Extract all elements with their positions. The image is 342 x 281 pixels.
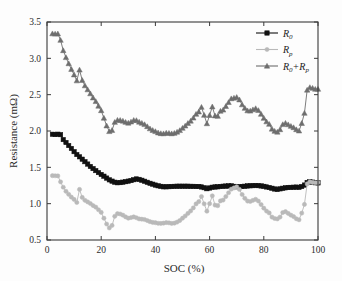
data-point-marker: [110, 223, 114, 227]
x-tick-label: 20: [96, 245, 106, 255]
data-point-marker: [221, 198, 225, 202]
y-tick-label: 1.5: [29, 163, 41, 173]
data-point-marker: [58, 180, 62, 184]
y-tick-label: 1.0: [29, 199, 41, 209]
data-point-marker: [77, 187, 81, 191]
data-point-marker: [224, 194, 228, 198]
data-point-marker: [265, 31, 269, 35]
data-point-marker: [226, 191, 230, 195]
x-tick-label: 100: [311, 245, 326, 255]
data-point-marker: [300, 211, 304, 215]
data-point-marker: [102, 216, 106, 220]
data-point-marker: [202, 202, 206, 206]
data-point-marker: [75, 200, 79, 204]
data-point-marker: [240, 192, 244, 196]
x-tick-label: 40: [151, 245, 161, 255]
y-tick-label: 3.0: [29, 54, 41, 64]
data-point-marker: [267, 211, 271, 215]
data-point-marker: [58, 132, 62, 136]
x-tick-label: 60: [205, 245, 215, 255]
data-point-marker: [191, 206, 195, 210]
y-tick-label: 0.5: [29, 235, 41, 245]
y-tick-label: 2.5: [29, 90, 41, 100]
data-point-marker: [265, 47, 269, 51]
resistance-vs-soc-chart: 0.51.01.52.02.53.03.5020406080100 Resist…: [0, 0, 342, 281]
data-point-marker: [197, 200, 201, 204]
data-point-marker: [61, 185, 65, 189]
chart-figure: 0.51.01.52.02.53.03.5020406080100 Resist…: [0, 0, 342, 281]
x-tick-label: 0: [45, 245, 50, 255]
data-point-marker: [199, 194, 203, 198]
y-tick-label: 3.5: [29, 17, 41, 27]
data-point-marker: [302, 202, 306, 206]
data-point-marker: [105, 222, 109, 226]
data-point-marker: [216, 204, 220, 208]
data-point-marker: [278, 215, 282, 219]
data-point-marker: [56, 174, 60, 178]
data-point-marker: [237, 187, 241, 191]
data-point-marker: [208, 202, 212, 206]
data-point-marker: [256, 199, 260, 203]
y-tick-label: 2.0: [29, 126, 41, 136]
x-axis-title: SOC (%): [164, 262, 205, 275]
data-point-marker: [205, 209, 209, 213]
data-point-marker: [210, 194, 214, 198]
data-point-marker: [259, 202, 263, 206]
plot-background: [0, 0, 342, 281]
data-point-marker: [297, 218, 301, 222]
y-axis-title: Resistance (mΩ): [7, 94, 20, 168]
data-point-marker: [99, 210, 103, 214]
x-tick-label: 80: [259, 245, 269, 255]
